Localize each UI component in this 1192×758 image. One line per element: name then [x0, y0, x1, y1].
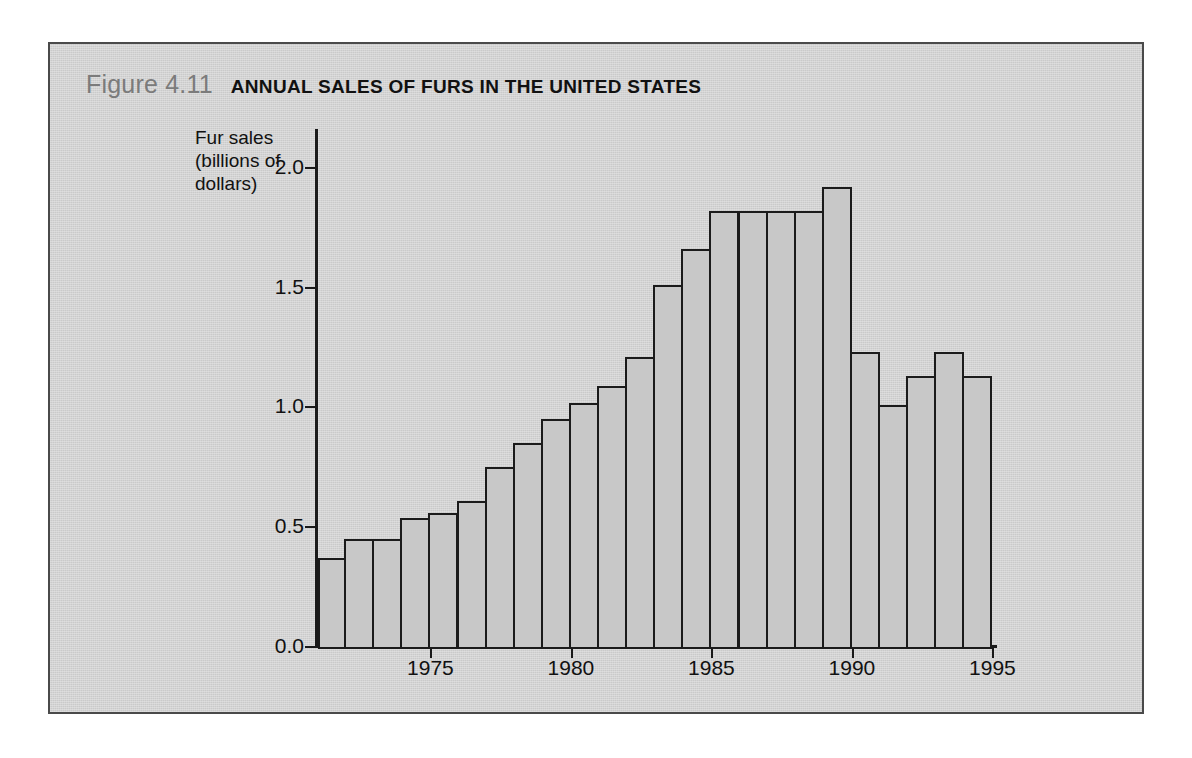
bar — [569, 403, 599, 649]
bar — [457, 501, 487, 649]
bar — [513, 443, 543, 649]
y-tick-label: 0.0 — [248, 634, 304, 658]
bar — [653, 285, 683, 649]
bar — [878, 405, 908, 649]
bar — [541, 419, 571, 649]
figure-panel: Figure 4.11 ANNUAL SALES OF FURS IN THE … — [48, 42, 1144, 714]
bar — [850, 352, 880, 649]
x-tick-label: 1990 — [829, 656, 876, 680]
bar — [597, 386, 627, 649]
y-tick-mark — [305, 526, 316, 528]
bar — [681, 249, 711, 649]
bar — [485, 467, 515, 649]
bar — [934, 352, 964, 649]
bar — [344, 539, 374, 649]
bar — [400, 518, 430, 649]
bar — [372, 539, 402, 649]
y-tick-label: 1.0 — [248, 394, 304, 418]
bar — [794, 211, 824, 649]
x-tick-label: 1995 — [969, 656, 1016, 680]
y-tick-label: 2.0 — [248, 155, 304, 179]
x-tick-label: 1975 — [407, 656, 454, 680]
y-tick-label: 1.5 — [248, 275, 304, 299]
bar — [906, 376, 936, 649]
bar — [709, 211, 739, 649]
bar — [625, 357, 655, 649]
bar — [428, 513, 458, 649]
bar — [962, 376, 992, 649]
x-tick-label: 1980 — [548, 656, 595, 680]
bar — [822, 187, 852, 649]
y-tick-label: 0.5 — [248, 514, 304, 538]
y-tick-mark — [305, 167, 316, 169]
y-tick-mark — [305, 646, 316, 648]
bar — [738, 211, 768, 649]
y-tick-mark — [305, 287, 316, 289]
bar — [766, 211, 796, 649]
y-tick-mark — [305, 406, 316, 408]
bar-chart-plot: Fur sales (billions of dollars) 0.00.51.… — [50, 44, 1142, 712]
x-tick-label: 1985 — [688, 656, 735, 680]
